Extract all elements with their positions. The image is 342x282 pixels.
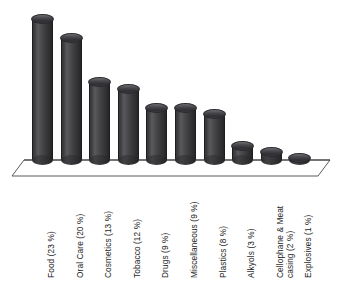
bar-cylinder-base bbox=[61, 155, 82, 165]
category-tick-label: Food (23 %) bbox=[47, 231, 57, 278]
category-tick-label: Cellophane & Meat casing (2 %) bbox=[276, 206, 295, 278]
bar-plastics bbox=[204, 109, 225, 160]
category-tick-label: Cosmetics (13 %) bbox=[104, 211, 114, 278]
bar-cylinder-body bbox=[204, 114, 225, 160]
plot-area bbox=[0, 0, 342, 180]
bar-cylinder-cap bbox=[117, 84, 140, 94]
category-tick-label: Alkyols (3 %) bbox=[247, 228, 257, 278]
bar-cylinder-body bbox=[118, 89, 139, 160]
bar-cylinder-body bbox=[175, 108, 196, 160]
bar-oral-care bbox=[61, 33, 82, 160]
bar-tobacco bbox=[118, 84, 139, 160]
bar-cylinder-cap bbox=[174, 103, 197, 113]
bar-explosives bbox=[289, 153, 310, 160]
category-tick-label: Plastics (8 %) bbox=[219, 226, 229, 278]
bar-cylinder-body bbox=[146, 108, 167, 160]
category-tick-label: Drugs (9 %) bbox=[161, 233, 171, 278]
bar-cylinder-body bbox=[89, 82, 110, 160]
bar-cellophane-meat-casing bbox=[261, 147, 282, 160]
bar-cylinder-base bbox=[146, 155, 167, 165]
bar-cylinder-base bbox=[232, 155, 253, 165]
bar-cylinder-cap bbox=[60, 33, 83, 43]
bar-cylinder-base bbox=[175, 155, 196, 165]
bar-cosmetics bbox=[89, 77, 110, 160]
bar-cylinder-body bbox=[32, 19, 53, 160]
bar-cylinder-cap bbox=[231, 141, 254, 151]
category-tick-label: Explosives (1 %) bbox=[304, 215, 314, 278]
bar-food bbox=[32, 14, 53, 160]
bar-cylinder-base bbox=[89, 155, 110, 165]
bar-cylinder-base bbox=[118, 155, 139, 165]
bar-cylinder-cap bbox=[203, 109, 226, 119]
category-tick-label: Miscellaneous (9 %) bbox=[190, 201, 200, 278]
bar-chart: Food (23 %)Oral Care (20 %)Cosmetics (13… bbox=[0, 0, 342, 282]
category-tick-label: Tobacco (12 %) bbox=[133, 219, 143, 278]
bars-layer bbox=[0, 0, 342, 180]
category-tick-label: Oral Care (20 %) bbox=[76, 214, 86, 278]
bar-miscellaneous bbox=[175, 103, 196, 160]
bar-cylinder-cap bbox=[145, 103, 168, 113]
bar-alkyols bbox=[232, 141, 253, 160]
bar-drugs bbox=[146, 103, 167, 160]
bar-cylinder-cap bbox=[31, 14, 54, 24]
bar-cylinder-base bbox=[204, 155, 225, 165]
bar-cylinder-body bbox=[61, 38, 82, 160]
bar-cylinder-base bbox=[32, 155, 53, 165]
